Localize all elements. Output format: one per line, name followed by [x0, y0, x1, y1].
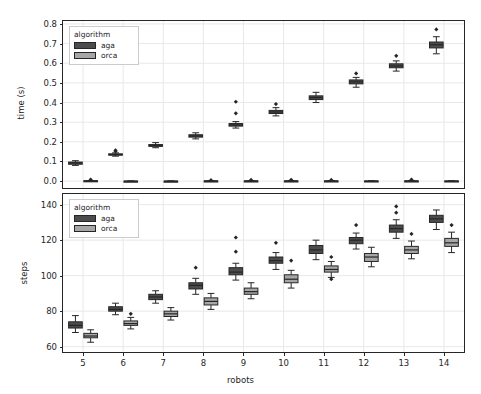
legend-entry-aga: aga — [74, 214, 133, 223]
tick-mark — [60, 24, 63, 25]
legend-entry-orca: orca — [74, 224, 133, 233]
time-tick-6: 0.6 — [29, 58, 57, 68]
time-tick-3: 0.3 — [29, 117, 57, 127]
tick-mark — [60, 161, 63, 162]
legend-entry-aga: aga — [74, 41, 133, 50]
tick-mark — [60, 142, 63, 143]
steps-tick-1: 80 — [29, 306, 57, 316]
robots-tick-8: 8 — [191, 358, 215, 368]
steps-tick-2: 100 — [29, 271, 57, 281]
time-tick-4: 0.4 — [29, 98, 57, 108]
tick-mark — [60, 311, 63, 312]
time-legend: algorithm aga orca — [69, 26, 139, 65]
tick-mark — [163, 353, 164, 356]
legend-label-aga: aga — [101, 41, 115, 50]
legend-swatch-orca — [74, 225, 96, 232]
tick-mark — [364, 353, 365, 356]
tick-mark — [60, 103, 63, 104]
time-tick-7: 0.7 — [29, 39, 57, 49]
tick-mark — [284, 353, 285, 356]
robots-tick-12: 12 — [352, 358, 376, 368]
tick-mark — [243, 353, 244, 356]
tick-mark — [324, 353, 325, 356]
robots-tick-11: 11 — [312, 358, 336, 368]
tick-mark — [203, 353, 204, 356]
legend-label-orca: orca — [101, 224, 117, 233]
legend-label-aga: aga — [101, 214, 115, 223]
tick-mark — [60, 44, 63, 45]
tick-mark — [123, 353, 124, 356]
robots-tick-10: 10 — [272, 358, 296, 368]
time-tick-8: 0.8 — [29, 19, 57, 29]
steps-legend: algorithm aga orca — [69, 199, 139, 238]
legend-title: algorithm — [74, 203, 133, 212]
time-tick-0: 0.0 — [29, 176, 57, 186]
robots-tick-14: 14 — [432, 358, 456, 368]
steps-tick-4: 140 — [29, 200, 57, 210]
tick-mark — [60, 181, 63, 182]
tick-mark — [60, 205, 63, 206]
steps-tick-0: 60 — [29, 342, 57, 352]
legend-swatch-aga — [74, 215, 96, 222]
time-tick-5: 0.5 — [29, 78, 57, 88]
tick-mark — [83, 353, 84, 356]
steps-tick-3: 120 — [29, 235, 57, 245]
robots-tick-13: 13 — [392, 358, 416, 368]
tick-mark — [60, 240, 63, 241]
robots-tick-5: 5 — [71, 358, 95, 368]
steps-axis-label: steps — [19, 243, 29, 303]
time-tick-2: 0.2 — [29, 137, 57, 147]
legend-title: algorithm — [74, 30, 133, 39]
tick-mark — [60, 347, 63, 348]
legend-swatch-aga — [74, 42, 96, 49]
tick-mark — [404, 353, 405, 356]
tick-mark — [60, 63, 63, 64]
robots-tick-7: 7 — [151, 358, 175, 368]
legend-entry-orca: orca — [74, 51, 133, 60]
legend-label-orca: orca — [101, 51, 117, 60]
robots-tick-6: 6 — [111, 358, 135, 368]
robots-tick-9: 9 — [231, 358, 255, 368]
tick-mark — [60, 83, 63, 84]
robots-axis-label: robots — [0, 375, 481, 385]
tick-mark — [444, 353, 445, 356]
time-axis-label: time (s) — [16, 73, 26, 133]
time-tick-1: 0.1 — [29, 156, 57, 166]
box-plot-figure: time (s) 0.00.10.20.30.40.50.60.70.8 alg… — [0, 0, 481, 394]
tick-mark — [60, 276, 63, 277]
legend-swatch-orca — [74, 52, 96, 59]
tick-mark — [60, 122, 63, 123]
